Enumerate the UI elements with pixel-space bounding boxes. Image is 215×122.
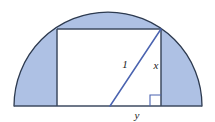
label-vertical-leg-x: x [153,59,159,71]
inscribed-rectangle-interior [57,29,161,106]
label-hypotenuse: 1 [122,58,128,70]
geometry-figure-svg: 1 x y [0,0,215,122]
geometry-figure-canvas: 1 x y [0,0,215,122]
label-horizontal-leg-y: y [134,109,140,121]
